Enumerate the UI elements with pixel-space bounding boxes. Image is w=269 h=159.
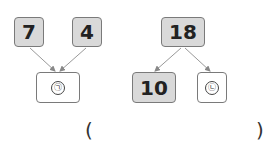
number-box-18: 18: [161, 17, 205, 47]
number-4: 4: [80, 20, 94, 44]
number-box-7: 7: [14, 17, 44, 47]
circled-giyeok-label: ㉠: [51, 81, 65, 95]
number-10: 10: [140, 76, 168, 100]
number-7: 7: [22, 20, 36, 44]
answer-box-b: ㉡: [197, 72, 227, 103]
number-18: 18: [169, 20, 197, 44]
number-box-10: 10: [132, 72, 176, 103]
number-box-4: 4: [72, 17, 102, 47]
answer-box-a: ㉠: [36, 72, 80, 103]
answer-close-paren: ): [256, 118, 264, 142]
circled-nieun-label: ㉡: [205, 81, 219, 95]
answer-open-paren: (: [85, 118, 93, 142]
